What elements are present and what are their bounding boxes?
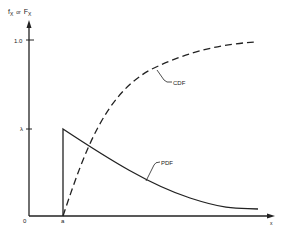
pdf-curve [63,129,258,216]
origin-label: 0 [23,218,27,224]
tick-lambda-label: λ [20,126,23,132]
a-label: a [61,218,65,224]
tick-one-label: 1.0 [14,38,23,44]
x-axis-arrow-icon [267,214,275,219]
y-axis-arrow-icon [27,20,32,28]
pdf-leader-line [146,162,160,181]
cdf-label: CDF [173,80,186,86]
cdf-curve [63,42,255,216]
cdf-leader-line [157,70,172,82]
y-axis-label: fXorFX [8,8,32,17]
pdf-cdf-diagram: fXorFX 1.0 λ 0 a x CDF PDF [0,0,289,232]
x-axis-label: x [270,220,273,226]
pdf-label: PDF [161,160,173,166]
